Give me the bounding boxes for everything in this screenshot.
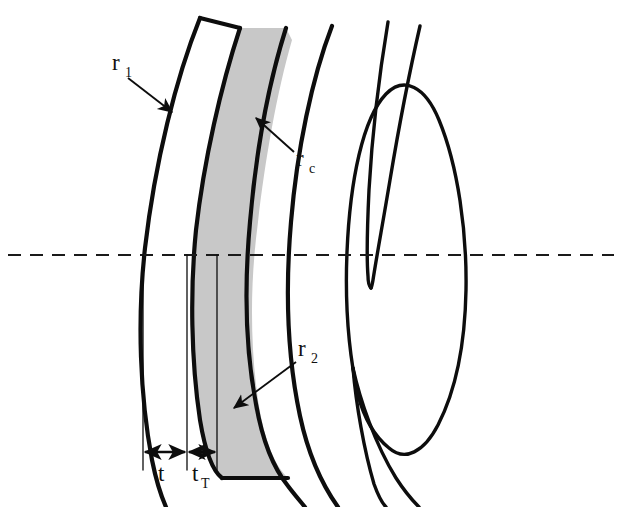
shaded-cornea-band <box>192 28 292 478</box>
cornea-posterior-surface <box>288 26 338 507</box>
eye-contact-lens-diagram: r 1 r c r 2 t t T <box>0 0 622 507</box>
label-r2: r 2 <box>298 336 318 366</box>
label-r1: r 1 <box>112 50 132 80</box>
label-tT-subscript: T <box>201 476 210 491</box>
label-r1-base: r <box>112 50 120 75</box>
label-r2-subscript: 2 <box>311 351 318 366</box>
contact-lens-anterior-surface <box>141 18 200 507</box>
label-rc-base: r <box>296 146 304 171</box>
label-t-base: t <box>158 461 165 486</box>
figure-container: r 1 r c r 2 t t T <box>0 0 622 507</box>
label-t: t <box>158 461 165 486</box>
label-rc: r c <box>296 146 315 176</box>
label-rc-subscript: c <box>309 161 315 176</box>
r1-leader-line <box>128 78 172 112</box>
iris-upper-inner-edge <box>371 26 420 288</box>
crystalline-lens <box>346 85 466 454</box>
label-r2-base: r <box>298 336 306 361</box>
label-r1-subscript: 1 <box>125 65 132 80</box>
label-tT-base: t <box>192 461 199 486</box>
contact-lens-top-edge <box>200 18 240 28</box>
label-tT: t T <box>192 461 210 491</box>
